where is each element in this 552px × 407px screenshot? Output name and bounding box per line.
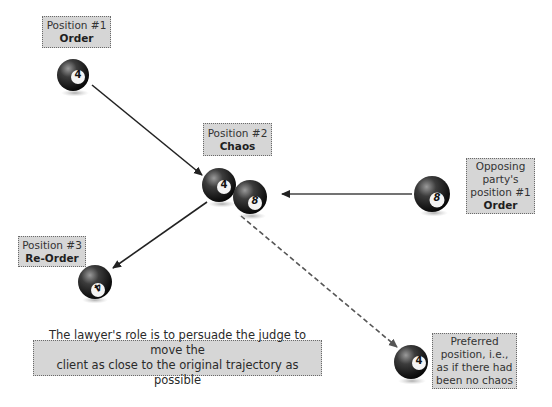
label-opposing-position: Opposing party's position #1 Order (466, 158, 535, 214)
arrow-order-to-chaos (92, 85, 202, 175)
arrow-chaos-to-reorder (113, 202, 207, 268)
label-opposing-state: Order (484, 199, 518, 212)
ball-number-chaos-4: 4 (219, 179, 229, 190)
statement-line2: client as close to the original trajecto… (34, 358, 321, 388)
label-preferred-line3: as if there had (436, 361, 512, 374)
label-position-1-title: Position #1 (47, 19, 107, 32)
lawyer-role-statement: The lawyer's role is to persuade the jud… (33, 340, 322, 376)
label-position-3-state: Re-Order (25, 252, 78, 265)
label-position-1-state: Order (60, 32, 94, 45)
ball-number-pos1: 4 (73, 69, 83, 80)
label-preferred-line4: been no chaos (436, 374, 513, 387)
label-position-1: Position #1 Order (42, 16, 111, 48)
label-position-2: Position #2 Chaos (203, 123, 272, 156)
label-position-2-state: Chaos (220, 140, 256, 153)
label-preferred-position: Preferred position, i.e., as if there ha… (432, 333, 517, 389)
label-position-3-title: Position #3 (22, 239, 82, 252)
diagram-canvas: 4 4 8 8 4 4 Position #1 Order Position #… (0, 0, 552, 407)
ball-number-opposing: 8 (432, 192, 442, 203)
label-position-2-title: Position #2 (208, 127, 268, 140)
ball-number-chaos-8: 8 (250, 195, 260, 206)
statement-line1: The lawyer's role is to persuade the jud… (34, 328, 321, 358)
label-preferred-line2: position, i.e., (441, 348, 509, 361)
label-opposing-line3: position #1 (470, 186, 530, 199)
label-opposing-line2: party's (482, 173, 518, 186)
ball-number-preferred: 4 (414, 355, 424, 366)
label-preferred-line1: Preferred (450, 335, 498, 348)
label-position-3: Position #3 Re-Order (18, 236, 86, 267)
label-opposing-line1: Opposing (476, 160, 526, 173)
